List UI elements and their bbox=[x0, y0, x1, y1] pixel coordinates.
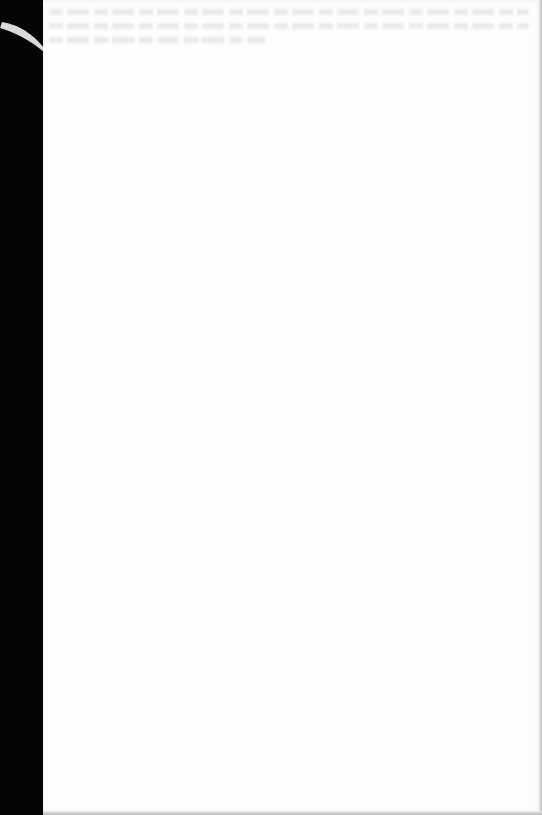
page-bottom-edge bbox=[43, 811, 542, 815]
showthrough-line bbox=[49, 37, 265, 43]
scan-backdrop-margin bbox=[0, 0, 44, 815]
showthrough-line bbox=[49, 23, 529, 29]
reverse-side-showthrough bbox=[49, 2, 529, 64]
document-page bbox=[43, 0, 542, 815]
showthrough-line bbox=[49, 9, 529, 15]
page-corner-curl-icon bbox=[0, 18, 46, 52]
